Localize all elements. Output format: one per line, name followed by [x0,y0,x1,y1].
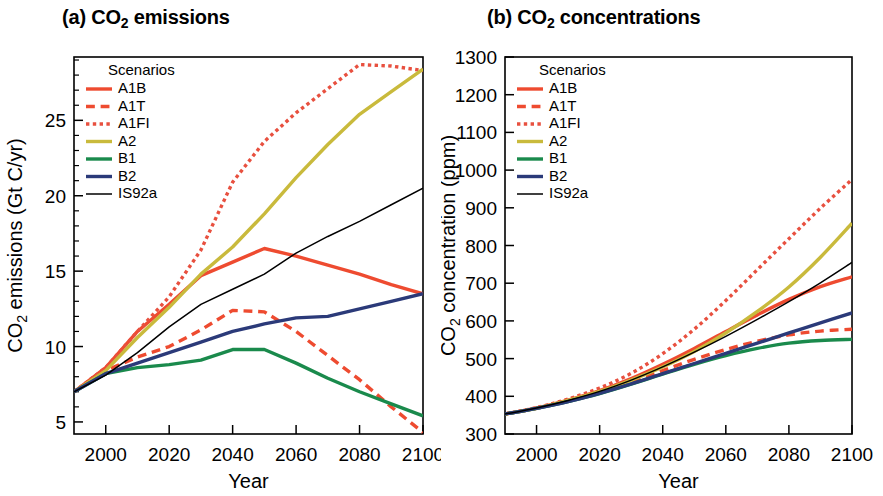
legend-label-is92a: IS92a [549,184,589,201]
x-tick-label: 2060 [705,444,747,465]
legend-label-b2: B2 [549,167,567,184]
x-tick-label: 2020 [148,444,190,465]
x-tick-label: 2100 [831,444,873,465]
y-tick-label: 1000 [455,160,497,181]
y-tick-label: 15 [45,261,66,282]
x-tick-label: 2000 [515,444,557,465]
x-axis-title: Year [228,470,269,492]
y-tick-label: 10 [45,337,66,358]
legend-label-a1fi: A1FI [118,114,150,131]
x-tick-label: 2040 [642,444,684,465]
plot-area-concentrations: 3004005006007008009001000110012001300200… [441,0,883,496]
legend-label-a2: A2 [549,132,567,149]
legend-label-b2: B2 [118,167,136,184]
legend-label-a1fi: A1FI [549,114,581,131]
legend-label-a1b: A1B [549,79,577,96]
y-tick-label: 600 [465,311,497,332]
legend-label-b1: B1 [549,149,567,166]
x-tick-label: 2020 [578,444,620,465]
x-tick-label: 2060 [275,444,317,465]
legend: ScenariosA1BA1TA1FIA2B1B2IS92a [86,61,175,201]
x-tick-label: 2080 [338,444,380,465]
legend-header: Scenarios [108,61,175,78]
y-tick-label: 700 [465,273,497,294]
panel-co2-concentrations: (b) CO2 concentrations 30040050060070080… [441,0,883,496]
y-tick-label: 400 [465,386,497,407]
legend-label-is92a: IS92a [118,184,158,201]
plot-area-emissions: 510152025200020202040206020802100YearCO2… [0,0,441,496]
legend: ScenariosA1BA1TA1FIA2B1B2IS92a [517,61,606,201]
series-line-is92a [505,262,852,414]
y-tick-label: 25 [45,110,66,131]
legend-label-b1: B1 [118,149,136,166]
y-tick-label: 500 [465,349,497,370]
y-tick-label: 5 [55,412,66,433]
x-axis-title: Year [658,470,699,492]
y-tick-label: 300 [465,424,497,445]
figure-root: (a) CO2 emissions 5101520252000202020402… [0,0,883,496]
legend-header: Scenarios [539,61,606,78]
y-tick-label: 1100 [456,122,497,143]
y-tick-label: 20 [45,186,66,207]
y-axis-title: CO2 emissions (Gt C/yr) [4,138,30,352]
legend-label-a1t: A1T [118,97,146,114]
y-tick-label: 1200 [455,85,497,106]
y-tick-label: 800 [465,236,497,257]
series-line-b1 [74,350,423,416]
y-tick-label: 900 [465,198,497,219]
legend-label-a1b: A1B [118,79,146,96]
panel-co2-emissions: (a) CO2 emissions 5101520252000202020402… [0,0,441,496]
x-tick-label: 2040 [211,444,253,465]
x-tick-label: 2080 [768,444,810,465]
x-tick-label: 2100 [402,444,441,465]
x-tick-label: 2000 [85,444,127,465]
series-line-is92a [74,188,423,392]
series-line-a1fi [505,180,852,414]
legend-label-a1t: A1T [549,97,577,114]
series-line-a1b [505,277,852,414]
y-tick-label: 1300 [455,47,497,68]
legend-label-a2: A2 [118,132,136,149]
series-line-a2 [505,223,852,414]
